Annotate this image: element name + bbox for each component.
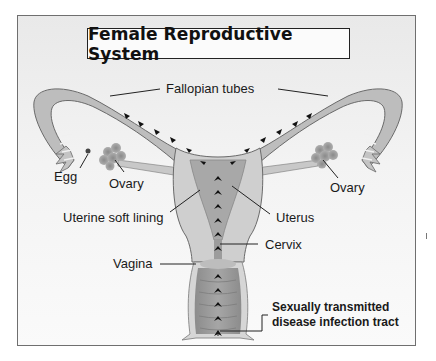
vagina bbox=[182, 259, 254, 340]
label-ovary-left: Ovary bbox=[109, 176, 144, 191]
label-fallopian-tubes: Fallopian tubes bbox=[166, 81, 254, 96]
label-vagina: Vagina bbox=[113, 256, 153, 271]
label-ovary-right: Ovary bbox=[330, 180, 365, 195]
scan-artifact bbox=[426, 233, 427, 239]
egg bbox=[86, 149, 91, 154]
label-egg: Egg bbox=[54, 169, 77, 184]
label-std-tract-line1: Sexually transmitted bbox=[272, 300, 389, 315]
label-cervix: Cervix bbox=[265, 237, 302, 252]
label-uterus: Uterus bbox=[276, 210, 314, 225]
left-ovarian-ligament bbox=[118, 160, 180, 176]
label-std-tract-line2: disease infection tract bbox=[272, 315, 399, 330]
right-ovarian-ligament bbox=[256, 160, 318, 176]
label-uterine-soft-lining: Uterine soft lining bbox=[63, 210, 163, 225]
